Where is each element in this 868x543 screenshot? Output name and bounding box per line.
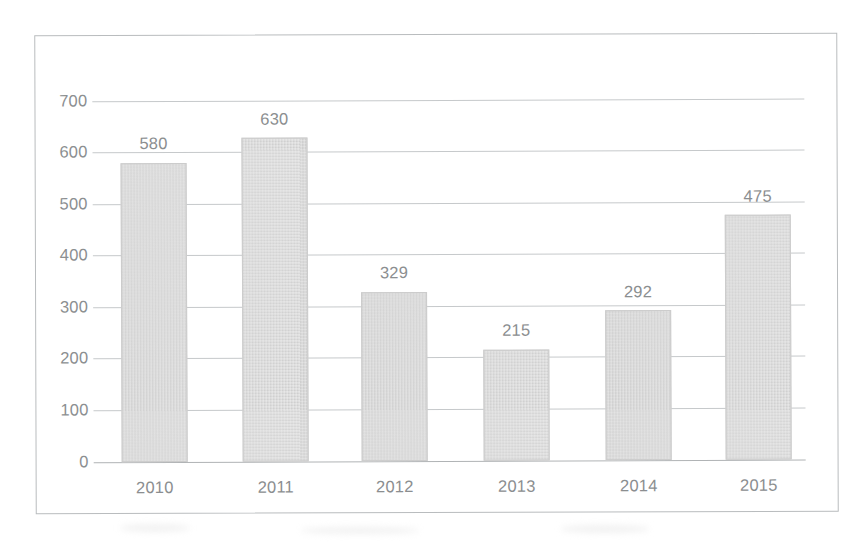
ytick-0: 0 <box>41 452 89 472</box>
scan-artifact <box>300 527 420 534</box>
scan-artifact <box>560 525 650 533</box>
xtick-label-2015: 2015 <box>714 476 804 495</box>
xtick-label-2013: 2013 <box>472 476 562 495</box>
ytick-label-400: 400 <box>46 245 88 264</box>
xtick-label-2012: 2012 <box>350 477 440 496</box>
ytick-200: 200 <box>40 348 88 368</box>
bar-2013 <box>483 350 549 461</box>
ytick-400: 400 <box>40 245 88 265</box>
xtick-label-2010: 2010 <box>110 478 200 497</box>
ytick-label-300: 300 <box>46 297 88 316</box>
gridline-500 <box>93 202 805 206</box>
ytick-300: 300 <box>40 297 88 317</box>
ytick-500: 500 <box>40 194 88 214</box>
ytick-700: 700 <box>39 91 87 111</box>
bar-2014 <box>605 310 672 460</box>
ytick-label-0: 0 <box>47 452 89 471</box>
bar-label-2014: 292 <box>593 282 683 301</box>
ytick-label-600: 600 <box>45 142 87 161</box>
gridline-400 <box>93 253 805 257</box>
gridline-200 <box>93 356 805 360</box>
bar-label-2012: 329 <box>349 263 439 282</box>
ytick-label-700: 700 <box>45 91 87 110</box>
bar-label-2011: 630 <box>229 109 319 128</box>
ytick-label-200: 200 <box>46 348 88 367</box>
gridline-300 <box>93 305 805 309</box>
gridline-100 <box>93 408 805 412</box>
bar-label-2010: 580 <box>108 134 198 153</box>
gridline-600 <box>93 150 805 154</box>
bar-2012 <box>361 292 428 461</box>
bar-label-2013: 215 <box>471 320 561 339</box>
ytick-label-100: 100 <box>46 400 88 419</box>
ytick-label-500: 500 <box>46 194 88 213</box>
bar-2010 <box>121 163 188 462</box>
ytick-100: 100 <box>40 400 88 420</box>
ytick-600: 600 <box>39 142 87 162</box>
bar-label-2015: 475 <box>713 187 803 206</box>
gridline-700 <box>92 99 804 103</box>
bar-2015 <box>725 215 792 460</box>
xtick-label-2014: 2014 <box>594 476 684 495</box>
plot-area: 700 600 500 400 300 200 100 0 <box>0 0 868 543</box>
scan-artifact <box>120 524 190 532</box>
xtick-label-2011: 2011 <box>231 477 321 496</box>
bar-2011 <box>241 137 308 461</box>
x-axis-line <box>94 460 806 464</box>
